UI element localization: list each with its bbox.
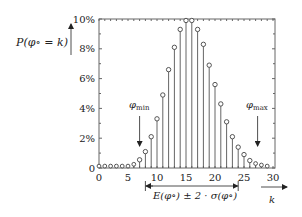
stem-point: [265, 164, 269, 168]
stem-point: [161, 93, 165, 168]
phi-min-label: φmin: [129, 99, 150, 112]
stem-point: [97, 164, 101, 168]
stem-point: [126, 164, 130, 168]
stem-point: [178, 27, 182, 168]
x-tick-label: 30: [267, 172, 280, 183]
phi-max-label: φmax: [246, 99, 268, 112]
plot-frame: [99, 19, 275, 168]
x-tick-label: 10: [151, 172, 164, 183]
y-tick-label: 6%: [79, 73, 95, 84]
y-tick-label: 2%: [79, 133, 95, 144]
stem-point: [230, 135, 234, 168]
stem-point: [132, 162, 136, 168]
y-tick-label: 10%: [73, 14, 95, 25]
stem-point: [103, 164, 107, 168]
x-tick-label: 15: [180, 172, 193, 183]
chart-canvas: 02%4%6%8%10%051015202530 P(φ∘ = k) φmin …: [0, 0, 302, 217]
stem-point: [149, 135, 153, 168]
stem-point: [143, 149, 147, 168]
x-axis-label: k: [269, 194, 275, 205]
stem-point: [236, 145, 240, 168]
y-axis-label: P(φ∘ = k): [15, 36, 68, 49]
y-tick-label: 4%: [79, 103, 95, 114]
stem-point: [207, 63, 211, 168]
stem-point: [219, 102, 223, 168]
y-tick-label: 8%: [79, 43, 95, 54]
stem-point: [172, 45, 176, 168]
stem-point: [195, 27, 199, 168]
stem-point: [213, 82, 217, 168]
x-tick-label: 5: [125, 172, 131, 183]
stem-point: [190, 18, 194, 168]
stem-point: [155, 117, 159, 168]
x-tick-label: 25: [238, 172, 251, 183]
stem-point: [166, 67, 170, 168]
y-tick-label: 0: [89, 163, 95, 174]
stem-point: [248, 158, 252, 168]
stem-point: [260, 163, 264, 168]
stem-point: [120, 164, 124, 168]
stem-point: [224, 120, 228, 168]
stem-point: [242, 152, 246, 168]
x-tick-label: 20: [209, 172, 222, 183]
stem-point: [109, 164, 113, 168]
stem-point: [201, 42, 205, 168]
stem-plot: 02%4%6%8%10%051015202530 P(φ∘ = k) φmin …: [0, 0, 302, 217]
stem-point: [254, 162, 258, 168]
stem-point: [137, 158, 141, 168]
stem-series: [97, 18, 269, 168]
x-tick-label: 0: [96, 172, 102, 183]
stem-point: [184, 18, 188, 168]
stem-point: [115, 164, 119, 168]
range-label: E(φ∘) ± 2 · σ(φ∘): [152, 190, 237, 201]
